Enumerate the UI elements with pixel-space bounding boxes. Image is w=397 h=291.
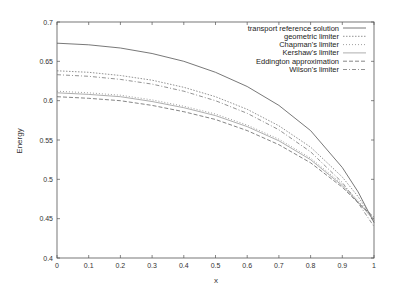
- legend-label: Wilson's limiter: [289, 65, 339, 74]
- x-axis-label: x: [214, 276, 218, 285]
- y-tick-label: 0.6: [43, 97, 53, 104]
- x-tick-label: 0.6: [242, 262, 252, 269]
- x-tick-label: 0.2: [116, 262, 126, 269]
- series-line: [57, 71, 374, 220]
- x-tick-label: 0.5: [211, 262, 221, 269]
- series-line: [57, 97, 374, 217]
- legend: transport reference solutiongeometric li…: [248, 24, 366, 75]
- y-tick-label: 0.4: [43, 255, 53, 262]
- y-tick-label: 0.7: [43, 19, 53, 26]
- y-tick-label: 0.5: [43, 176, 53, 183]
- x-tick-label: 0.4: [179, 262, 189, 269]
- y-tick-label: 0.55: [39, 137, 53, 144]
- series-line: [57, 91, 374, 219]
- x-tick-label: 0.9: [337, 262, 347, 269]
- energy-line-chart: 0.40.450.50.550.60.650.7 00.10.20.30.40.…: [0, 0, 397, 291]
- y-tick-label: 0.65: [39, 58, 53, 65]
- x-tick-label: 0.1: [84, 262, 94, 269]
- x-tick-label: 0.8: [306, 262, 316, 269]
- series-line: [57, 93, 374, 220]
- x-tick-label: 0: [55, 262, 59, 269]
- y-axis-label: Energy: [15, 128, 24, 153]
- x-tick-label: 0.3: [147, 262, 157, 269]
- x-tick-label: 0.7: [274, 262, 284, 269]
- x-tick-label: 1: [372, 262, 376, 269]
- y-tick-label: 0.45: [39, 215, 53, 222]
- series-line: [57, 75, 374, 227]
